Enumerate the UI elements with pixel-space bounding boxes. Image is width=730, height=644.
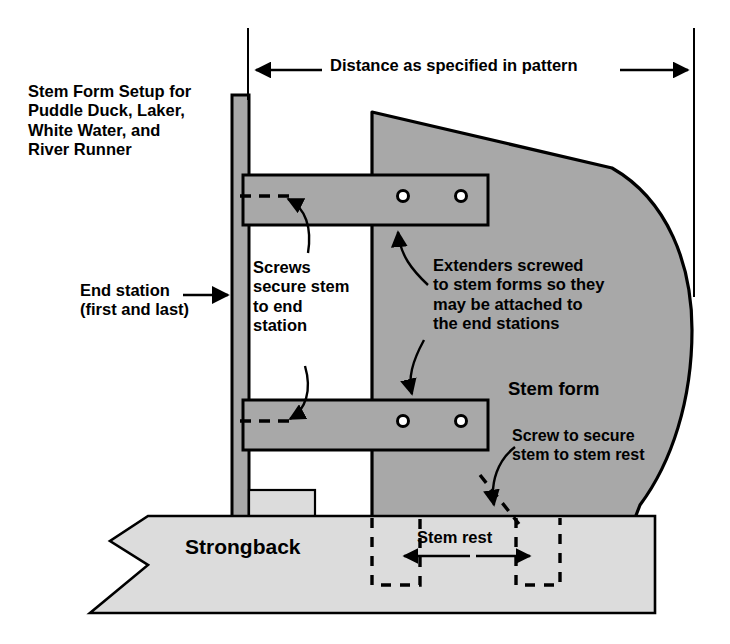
stem-form-label: Stem form xyxy=(508,378,600,400)
stem-rest-label: Stem rest xyxy=(417,528,492,547)
screw-hole-upper-left xyxy=(398,191,409,202)
upper-extender-bar xyxy=(243,175,488,225)
lower-extender-bar xyxy=(243,400,488,450)
screw-hole-upper-right xyxy=(456,191,467,202)
screw-hole-lower-left xyxy=(398,416,409,427)
end-station-label: End station (first and last) xyxy=(80,281,189,320)
stem-rest-block xyxy=(249,490,315,518)
screw-hole-lower-right xyxy=(456,416,467,427)
diagram-title: Stem Form Setup for Puddle Duck, Laker, … xyxy=(28,82,191,160)
extenders-label: Extenders screwed to stem forms so they … xyxy=(433,256,604,334)
end-station-post xyxy=(232,95,249,522)
stem-form-setup-diagram: Stem Form Setup for Puddle Duck, Laker, … xyxy=(0,0,730,644)
strongback-label: Strongback xyxy=(185,535,301,560)
dimension-label: Distance as specified in pattern xyxy=(330,56,578,75)
screws-secure-stem-label: Screws secure stem to end station xyxy=(253,258,349,336)
screw-to-secure-label: Screw to secure stem to stem rest xyxy=(512,427,645,465)
